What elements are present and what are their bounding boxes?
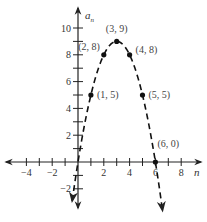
data-point [114,39,119,44]
y-tick-label: 6 [66,76,71,87]
x-tick-label: 2 [101,167,106,178]
y-axis-title: an [85,9,95,24]
x-axis-title: n [194,166,200,178]
y-tick-label: 10 [61,23,71,34]
data-point [127,52,132,57]
y-tick-label: 4 [66,103,71,114]
point-label: (4, 8) [136,44,158,56]
x-tick-label: −2 [47,167,58,178]
dashed-parabola [72,41,162,210]
point-label: (5, 5) [149,89,171,101]
data-points: (1, 5)(2, 8)(3, 9)(4, 8)(5, 5)(6, 0) [78,23,179,164]
x-tick-label: 8 [179,167,184,178]
parabola-curve [72,41,162,210]
data-point [153,159,158,164]
chart: −4−22468−2246810 (1, 5)(2, 8)(3, 9)(4, 8… [0,0,207,222]
x-tick-label: −4 [21,167,32,178]
axis-ticks: −4−22468−2246810 [21,23,184,195]
data-point [88,92,93,97]
point-label: (3, 9) [106,23,128,35]
point-label: (6, 0) [157,138,179,150]
y-tick-label: 8 [66,49,71,60]
x-tick-label: 4 [127,167,132,178]
axes [6,8,201,208]
data-point [101,52,106,57]
y-tick-label: 2 [66,130,71,141]
point-label: (1, 5) [97,89,119,101]
y-tick-label: −2 [60,183,71,194]
data-point [140,92,145,97]
point-label: (2, 8) [78,41,100,53]
